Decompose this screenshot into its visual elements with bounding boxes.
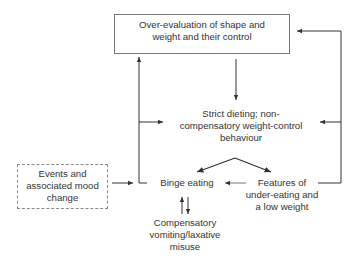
node-events-mood-line3: change: [18, 192, 107, 204]
arrow-right-loop-to-top: [297, 31, 341, 183]
node-strict-dieting-line3: behaviour: [166, 132, 316, 144]
node-underweight-line2: under-eating and: [240, 189, 324, 201]
node-events-mood-line2: associated mood: [18, 180, 107, 192]
node-strict-dieting-line2: compensatory weight-control: [166, 120, 316, 132]
arrow-dieting-to-underweight: [235, 158, 271, 172]
node-strict-dieting-line1: Strict dieting; non-: [166, 108, 316, 120]
node-binge-eating: Binge eating: [152, 177, 222, 189]
node-binge-eating-label: Binge eating: [152, 177, 222, 189]
node-underweight-line3: a low weight: [240, 201, 324, 213]
node-events-mood: Events and associated mood change: [17, 164, 108, 209]
arrow-left-loop-up: [139, 57, 147, 183]
node-underweight-line1: Features of: [240, 177, 324, 189]
node-strict-dieting: Strict dieting; non- compensatory weight…: [166, 108, 316, 144]
node-overevaluation-line2: weight and their control: [115, 31, 289, 43]
node-events-mood-line1: Events and: [18, 168, 107, 180]
node-compensatory-line1: Compensatory: [140, 217, 230, 229]
node-compensatory: Compensatory vomiting/laxative misuse: [140, 217, 230, 253]
node-compensatory-line2: vomiting/laxative: [140, 229, 230, 241]
node-underweight: Features of under-eating and a low weigh…: [240, 177, 324, 213]
node-overevaluation-line1: Over-evaluation of shape and: [115, 19, 289, 31]
node-overevaluation: Over-evaluation of shape and weight and …: [114, 14, 290, 54]
node-compensatory-line3: misuse: [140, 241, 230, 253]
arrow-dieting-to-binge: [197, 158, 235, 172]
